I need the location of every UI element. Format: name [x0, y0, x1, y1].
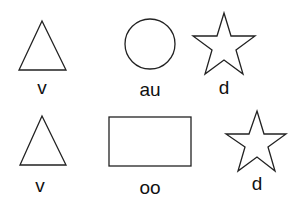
label-triangle-row2: v — [35, 176, 45, 195]
label-rectangle-row2: oo — [139, 178, 160, 197]
label-triangle-row1: v — [37, 78, 47, 97]
triangle-shape-row2 — [20, 116, 66, 165]
triangle-shape-row1 — [19, 21, 66, 70]
label-circle-row1: au — [139, 80, 160, 99]
label-star-row2: d — [252, 174, 263, 193]
label-star-row1: d — [219, 78, 230, 97]
rectangle-shape-row2 — [109, 117, 191, 166]
star-shape-row1 — [193, 13, 255, 74]
star-shape-row2 — [226, 111, 286, 171]
circle-shape-row1 — [125, 19, 175, 69]
